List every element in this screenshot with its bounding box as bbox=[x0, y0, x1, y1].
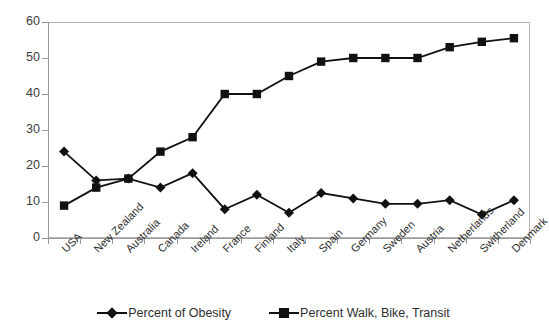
square-marker-icon bbox=[510, 34, 518, 42]
square-marker-icon bbox=[188, 133, 196, 141]
series-line bbox=[64, 152, 514, 215]
square-marker-icon bbox=[221, 90, 229, 98]
diamond-marker-icon bbox=[348, 193, 358, 203]
diamond-marker-icon bbox=[97, 306, 127, 320]
square-marker-icon bbox=[349, 54, 357, 62]
square-marker-icon bbox=[92, 183, 100, 191]
y-axis-tick-label: 10 bbox=[2, 195, 40, 208]
y-axis-tick-label: 20 bbox=[2, 159, 40, 172]
series-walk-bike-transit bbox=[60, 34, 518, 210]
square-marker-icon bbox=[156, 147, 164, 155]
square-marker-icon bbox=[279, 308, 289, 318]
legend-item[interactable]: Percent of Obesity bbox=[97, 306, 231, 320]
y-axis-tick-label: 30 bbox=[2, 123, 40, 136]
diamond-marker-icon bbox=[107, 307, 118, 318]
y-axis-tick-label: 40 bbox=[2, 87, 40, 100]
x-axis-tick bbox=[48, 239, 49, 244]
square-marker-icon bbox=[445, 43, 453, 51]
square-marker-icon bbox=[478, 38, 486, 46]
square-marker-icon bbox=[381, 54, 389, 62]
square-marker-icon bbox=[253, 90, 261, 98]
y-axis-tick-label: 0 bbox=[2, 231, 40, 244]
diamond-marker-icon bbox=[413, 199, 423, 209]
square-marker-icon bbox=[285, 72, 293, 80]
square-marker-icon bbox=[413, 54, 421, 62]
series-plot bbox=[48, 22, 530, 238]
y-axis: 0102030405060 bbox=[0, 0, 40, 336]
square-marker-icon bbox=[269, 306, 299, 320]
y-axis-tick-label: 60 bbox=[2, 15, 40, 28]
diamond-marker-icon bbox=[380, 199, 390, 209]
diamond-marker-icon bbox=[284, 208, 294, 218]
legend-label: Percent of Obesity bbox=[128, 307, 231, 320]
series-obesity bbox=[59, 147, 519, 220]
diamond-marker-icon bbox=[445, 195, 455, 205]
square-marker-icon bbox=[60, 201, 68, 209]
legend-item[interactable]: Percent Walk, Bike, Transit bbox=[269, 306, 450, 320]
diamond-marker-icon bbox=[477, 210, 487, 220]
square-marker-icon bbox=[124, 174, 132, 182]
diamond-marker-icon bbox=[155, 183, 165, 193]
diamond-marker-icon bbox=[316, 188, 326, 198]
legend-label: Percent Walk, Bike, Transit bbox=[300, 307, 450, 320]
diamond-marker-icon bbox=[509, 195, 519, 205]
square-marker-icon bbox=[317, 57, 325, 65]
y-axis-tick-label: 50 bbox=[2, 51, 40, 64]
chart-legend: Percent of ObesityPercent Walk, Bike, Tr… bbox=[0, 306, 547, 320]
diamond-marker-icon bbox=[252, 190, 262, 200]
